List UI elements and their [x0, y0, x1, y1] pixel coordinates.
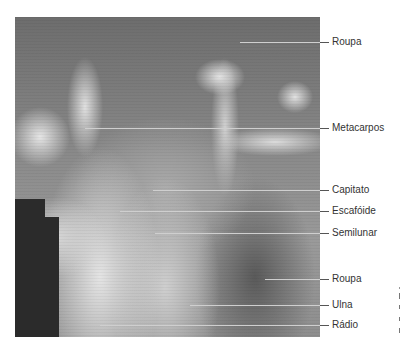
- leader-line-escafoide: [120, 211, 320, 212]
- leader-tick-semilunar: [320, 233, 329, 234]
- margin-mark: [399, 328, 400, 333]
- label-roupa-bottom: Roupa: [332, 273, 361, 285]
- leader-line-semilunar: [155, 233, 320, 234]
- leader-line-capitato: [153, 190, 320, 191]
- xray-image: [15, 17, 320, 337]
- leader-line-ulna: [190, 305, 320, 306]
- leader-tick-roupa-bottom: [320, 279, 329, 280]
- leader-tick-ulna: [320, 305, 329, 306]
- film-marker-block: [15, 199, 45, 337]
- leader-line-roupa-bottom: [265, 279, 320, 280]
- margin-mark: [399, 293, 400, 299]
- leader-line-radio: [100, 325, 320, 326]
- leader-tick-metacarpos: [320, 128, 329, 129]
- leader-line-metacarpos: [85, 128, 320, 129]
- label-escafoide: Escafóide: [332, 205, 376, 217]
- label-roupa-top: Roupa: [332, 36, 361, 48]
- label-semilunar: Semilunar: [332, 227, 377, 239]
- label-radio: Rádio: [332, 319, 358, 331]
- leader-tick-capitato: [320, 190, 329, 191]
- label-ulna: Ulna: [332, 299, 353, 311]
- film-marker-block-step: [45, 217, 59, 337]
- leader-line-roupa-top: [240, 42, 320, 43]
- margin-mark: [399, 287, 400, 289]
- leader-tick-escafoide: [320, 211, 329, 212]
- leader-tick-radio: [320, 325, 329, 326]
- margin-mark: [399, 305, 400, 309]
- leader-tick-roupa-top: [320, 42, 329, 43]
- margin-mark: [399, 317, 400, 321]
- label-metacarpos: Metacarpos: [332, 122, 384, 134]
- label-capitato: Capitato: [332, 184, 369, 196]
